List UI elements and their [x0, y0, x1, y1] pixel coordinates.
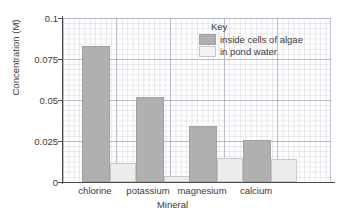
- legend: Key inside cells of algae in pond water: [199, 21, 327, 58]
- legend-item-label: inside cells of algae: [220, 34, 303, 45]
- legend-swatch-icon: [199, 34, 216, 45]
- y-axis-title: Concentration (M): [10, 0, 21, 128]
- y-tick-label: 0.025: [20, 136, 58, 147]
- legend-swatch-icon: [199, 46, 216, 57]
- bar-group-chlorine: [68, 18, 130, 182]
- y-tick-label: 0.075: [20, 54, 58, 65]
- x-tick-label-calcium: calcium: [223, 185, 289, 196]
- y-tick-label: 0.05: [20, 95, 58, 106]
- legend-item-pond: in pond water: [199, 46, 327, 57]
- bar-calcium-algae: [243, 140, 271, 182]
- y-tick-label: 0.1: [20, 13, 58, 24]
- bar-potassium-algae: [136, 97, 164, 182]
- bar-magnesium-algae: [189, 126, 217, 182]
- y-tick-label: 0: [20, 177, 58, 188]
- legend-title: Key: [211, 21, 327, 32]
- legend-item-label: in pond water: [220, 46, 277, 57]
- bar-chart: 0.1 0.075 0.05 0.025 0 Concentration (M): [0, 0, 345, 223]
- bar-chlorine-algae: [82, 46, 110, 182]
- x-axis-title: Mineral: [0, 199, 345, 210]
- y-axis-labels: 0.1 0.075 0.05 0.025 0: [14, 0, 58, 223]
- bar-calcium-pond: [271, 159, 297, 182]
- legend-item-algae: inside cells of algae: [199, 34, 327, 45]
- x-axis-line: [58, 182, 335, 183]
